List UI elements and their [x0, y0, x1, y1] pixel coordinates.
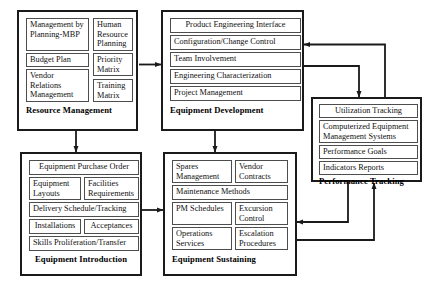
cell-product-engineering-interface[interactable]: Product Engineering Interface: [170, 18, 301, 33]
cell-label: Spares Management: [176, 162, 228, 181]
cell-installations[interactable]: Installations: [29, 219, 81, 234]
cell-label: Engineering Characterization: [174, 71, 297, 81]
cell-team-involvement[interactable]: Team Involvement: [170, 52, 301, 67]
connector-performance-tracking-to-equipment-sustaining: [297, 182, 348, 222]
cell-utilization-tracking[interactable]: Utilization Tracking: [319, 104, 418, 118]
group-label-equipment-introduction: Equipment Introduction: [26, 254, 136, 264]
cell-human-resource-planning[interactable]: Human Resource Planning: [93, 18, 133, 51]
cell-priority-matrix[interactable]: Priority Matrix: [93, 53, 133, 76]
cell-skills-proliferation-transfer[interactable]: Skills Proliferation/Transfer: [29, 236, 139, 251]
cell-label: Installations: [33, 221, 77, 231]
cell-acceptances[interactable]: Acceptances: [84, 219, 139, 234]
group-equipment-development: Product Engineering Interface Configurat…: [161, 10, 304, 131]
group-label-resource-management: Resource Management: [26, 105, 112, 115]
cell-pm-schedules[interactable]: PM Schedules: [172, 202, 232, 225]
group-label-equipment-sustaining: Equipment Sustaining: [172, 254, 256, 264]
cell-label: Project Management: [174, 88, 297, 98]
cell-label: Equipment Purchase Order: [33, 162, 135, 172]
group-performance-tracking: Utilization Tracking Computerized Equipm…: [311, 97, 422, 182]
cell-facilities-requirements[interactable]: Facilities Requirements: [84, 177, 139, 200]
connector-equipment-development-to-performance-tracking: [303, 66, 359, 97]
cell-label: Product Engineering Interface: [174, 20, 297, 30]
cell-label: Maintenance Methods: [176, 187, 284, 197]
cell-label: Utilization Tracking: [323, 106, 414, 116]
cell-label: Excursion Control: [239, 204, 284, 223]
cell-project-management[interactable]: Project Management: [170, 86, 301, 101]
cell-equipment-layouts[interactable]: Equipment Layouts: [29, 177, 81, 200]
cell-label: Delivery Schedule/Tracking: [33, 204, 135, 214]
cell-configuration-change-control[interactable]: Configuration/Change Control: [170, 35, 301, 50]
cell-label: Priority Matrix: [97, 55, 129, 74]
cell-label: Human Resource Planning: [97, 20, 129, 49]
cell-computerized-equipment-management-systems[interactable]: Computerized Equipment Management System…: [319, 120, 418, 143]
group-label-equipment-development: Equipment Development: [170, 105, 264, 115]
cell-label: Vendor Relations Management: [30, 71, 85, 100]
cell-management-by-planning-mbp[interactable]: Management by Planning-MBP: [26, 18, 89, 51]
cell-operations-services[interactable]: Operations Services: [172, 227, 232, 250]
cell-label: Configuration/Change Control: [174, 37, 297, 47]
cell-label: Equipment Layouts: [33, 179, 77, 198]
cell-indicators-reports[interactable]: Indicators Reports: [319, 161, 418, 175]
group-equipment-sustaining: Spares Management Vendor Contracts Maint…: [163, 152, 297, 276]
cell-label: Performance Goals: [323, 147, 414, 157]
process-diagram: Management by Planning-MBP Human Resourc…: [0, 0, 434, 289]
cell-delivery-schedule-tracking[interactable]: Delivery Schedule/Tracking: [29, 202, 139, 217]
group-equipment-introduction: Equipment Purchase Order Equipment Layou…: [20, 152, 142, 276]
group-resource-management: Management by Planning-MBP Human Resourc…: [17, 10, 138, 131]
cell-label: Vendor Contracts: [239, 162, 284, 181]
cell-label: Facilities Requirements: [88, 179, 135, 198]
cell-training-matrix[interactable]: Training Matrix: [93, 79, 133, 102]
group-label-performance-tracking: Performance Tracking: [319, 176, 404, 186]
cell-budget-plan[interactable]: Budget Plan: [26, 53, 89, 67]
cell-performance-goals[interactable]: Performance Goals: [319, 145, 418, 159]
cell-label: Management by Planning-MBP: [30, 20, 85, 39]
cell-label: Escalation Procedures: [239, 229, 284, 248]
cell-spares-management[interactable]: Spares Management: [172, 160, 232, 183]
cell-excursion-control[interactable]: Excursion Control: [235, 202, 288, 225]
cell-label: PM Schedules: [176, 204, 228, 214]
cell-label: Computerized Equipment Management System…: [323, 122, 414, 141]
cell-escalation-procedures[interactable]: Escalation Procedures: [235, 227, 288, 250]
cell-engineering-characterization[interactable]: Engineering Characterization: [170, 69, 301, 84]
cell-label: Budget Plan: [30, 55, 85, 65]
cell-vendor-relations-management[interactable]: Vendor Relations Management: [26, 69, 89, 102]
cell-label: Indicators Reports: [323, 163, 414, 173]
cell-label: Acceptances: [88, 221, 135, 231]
connector-performance-tracking-to-equipment-development: [304, 45, 385, 98]
cell-vendor-contracts[interactable]: Vendor Contracts: [235, 160, 288, 183]
cell-label: Team Involvement: [174, 54, 297, 64]
cell-label: Operations Services: [176, 229, 228, 248]
cell-label: Training Matrix: [97, 81, 129, 100]
cell-maintenance-methods[interactable]: Maintenance Methods: [172, 185, 288, 200]
connector-equipment-sustaining-to-performance-tracking: [296, 183, 374, 240]
cell-label: Skills Proliferation/Transfer: [33, 238, 135, 248]
cell-equipment-purchase-order[interactable]: Equipment Purchase Order: [29, 160, 139, 175]
